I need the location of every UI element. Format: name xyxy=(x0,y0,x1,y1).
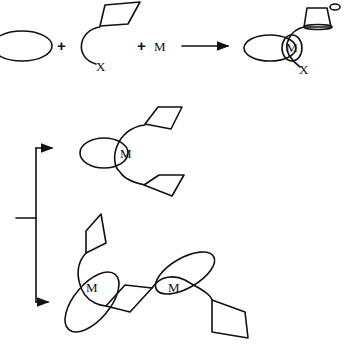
reaction-diagram: + X + M M X M xyxy=(0,0,346,352)
rotaxane-metal-label: M xyxy=(120,146,132,161)
branch-arrows xyxy=(16,148,52,302)
thread-reactant xyxy=(81,2,140,64)
metal-label: M xyxy=(154,39,166,54)
rotaxane-product xyxy=(80,107,184,196)
macrocycle-reactant xyxy=(0,31,52,61)
plus-sign-1: + xyxy=(57,37,66,54)
product-end-label: X xyxy=(299,62,309,77)
plus-sign-2: + xyxy=(137,37,146,54)
pseudorotaxane-product xyxy=(244,4,340,67)
thread-end-label: X xyxy=(96,59,106,74)
polyrotaxane-metal-label-1: M xyxy=(86,280,98,295)
polyrotaxane-product xyxy=(55,214,248,341)
product-metal-label: M xyxy=(286,40,298,55)
polyrotaxane-metal-label-2: M xyxy=(168,280,180,295)
